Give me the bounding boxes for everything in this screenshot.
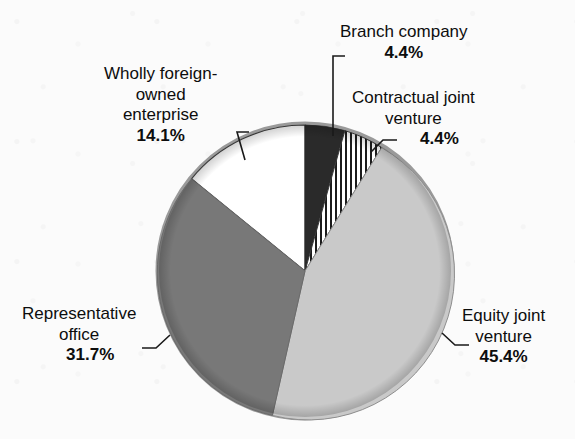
pie-label-equity-joint-venture-text-line2: venture [462,327,545,348]
pie-chart-graphic [0,0,575,439]
pie-label-branch-company-text: Branch company [340,22,468,43]
pie-label-wholly-foreign-owned-enterprise-value: 14.1% [104,126,217,147]
pie-label-branch-company-value: 4.4% [340,43,468,64]
pie-label-contractual-joint-venture: Contractual joint venture 4.4% [352,88,475,150]
pie-label-contractual-joint-venture-text-line1: Contractual joint [352,88,475,109]
pie-label-representative-office-value: 31.7% [22,345,136,366]
pie-label-equity-joint-venture-value: 45.4% [462,347,545,368]
leader-line-representative-office [142,335,170,348]
pie-label-branch-company: Branch company 4.4% [340,22,468,63]
leader-line-branch-company [333,56,345,136]
pie-label-representative-office-text-line2: office [22,325,136,346]
pie-label-wholly-foreign-owned-enterprise-text-line1: Wholly foreign- [104,64,217,85]
pie-label-representative-office: Representative office 31.7% [22,304,136,366]
pie-label-wholly-foreign-owned-enterprise-text-line3: enterprise [104,105,217,126]
pie-label-contractual-joint-venture-value: 4.4% [352,129,475,150]
pie-label-wholly-foreign-owned-enterprise: Wholly foreign- owned enterprise 14.1% [104,64,217,147]
pie-label-wholly-foreign-owned-enterprise-text-line2: owned [104,85,217,106]
pie-label-representative-office-text-line1: Representative [22,304,136,325]
pie-label-contractual-joint-venture-text-line2: venture [352,109,475,130]
pie-label-equity-joint-venture-text-line1: Equity joint [462,306,545,327]
pie-label-equity-joint-venture: Equity joint venture 45.4% [462,306,545,368]
pie-chart-page: Branch company 4.4% Contractual joint ve… [0,0,575,439]
